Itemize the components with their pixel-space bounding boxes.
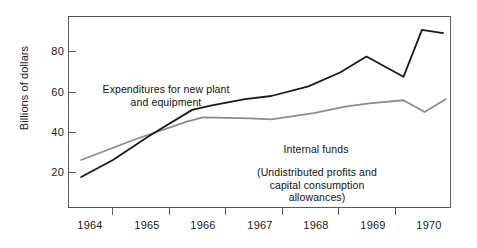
y-tick-label-20: 20 [36, 166, 64, 178]
y-tick-mark-20 [68, 172, 76, 173]
y-tick-mark-40 [68, 132, 76, 133]
annotation-internal-funds: Internal funds [246, 143, 386, 156]
annotation-expenditures: Expenditures for new plant and equipment [82, 83, 250, 108]
y-tick-label-40: 40 [36, 126, 64, 138]
y-tick-label-60: 60 [36, 86, 64, 98]
y-tick-mark-80 [68, 51, 76, 52]
x-tick-mark-6 [395, 208, 396, 215]
y-tick-label-80: 80 [36, 45, 64, 57]
x-tick-label-1965: 1965 [117, 219, 177, 231]
x-tick-mark-5 [338, 208, 339, 215]
y-axis-title: Billions of dollars [18, 18, 30, 158]
x-tick-label-1969: 1969 [343, 219, 403, 231]
annotation-internal-funds-detail: (Undistributed profits and capital consu… [236, 166, 398, 204]
y-tick-mark-60 [68, 92, 76, 93]
x-tick-mark-1 [112, 208, 113, 215]
x-tick-label-1967: 1967 [230, 219, 290, 231]
x-tick-label-1970: 1970 [399, 219, 459, 231]
x-tick-mark-4 [282, 208, 283, 215]
x-tick-label-1966: 1966 [173, 219, 233, 231]
x-tick-mark-3 [225, 208, 226, 215]
x-tick-label-1968: 1968 [286, 219, 346, 231]
chart-figure: Billions of dollars 80 60 40 20 1964 196… [0, 0, 477, 248]
x-tick-mark-2 [169, 208, 170, 215]
x-tick-label-1964: 1964 [60, 219, 120, 231]
